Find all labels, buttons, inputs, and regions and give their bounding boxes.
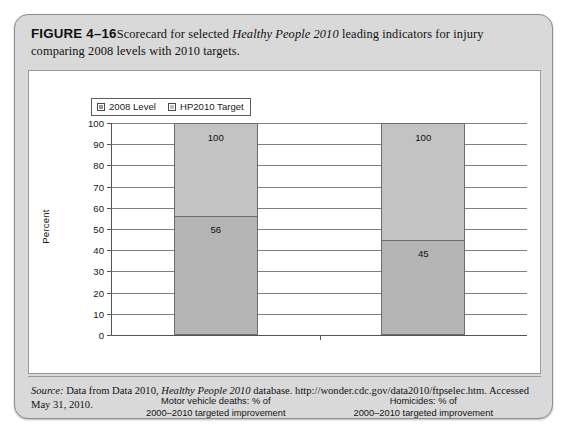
bar-value-label-target: 100 xyxy=(175,132,257,143)
y-axis-tick-label: 80 xyxy=(93,160,104,171)
source-prefix: Source: xyxy=(31,385,64,396)
y-axis-tick-label: 20 xyxy=(93,287,104,298)
y-axis-tick xyxy=(107,208,112,209)
y-axis-tick xyxy=(107,271,112,272)
figure-caption-text-1: Scorecard for selected xyxy=(117,27,232,41)
y-axis-tick-label: 40 xyxy=(93,245,104,256)
y-axis-tick xyxy=(107,314,112,315)
bar-value-label-target: 100 xyxy=(382,132,464,143)
y-axis-tick-label: 50 xyxy=(93,224,104,235)
figure-caption: FIGURE 4–16Scorecard for selected Health… xyxy=(15,15,553,60)
y-axis-tick-label: 0 xyxy=(99,330,104,341)
y-axis-tick-label: 90 xyxy=(93,139,104,150)
y-axis-tick-label: 100 xyxy=(88,118,104,129)
source-italic: Healthy People 2010 xyxy=(161,385,250,396)
plot-area: 100908070605040302010010056Motor vehicle… xyxy=(111,123,527,336)
y-axis-tick-label: 30 xyxy=(93,266,104,277)
divider-line xyxy=(28,376,541,377)
y-axis-tick xyxy=(107,123,112,124)
figure-number: FIGURE 4–16 xyxy=(31,26,117,41)
y-axis-tick-label: 70 xyxy=(93,181,104,192)
y-axis-tick xyxy=(107,293,112,294)
y-axis-tick-label: 60 xyxy=(93,202,104,213)
source-note: Source: Data from Data 2010, Healthy Peo… xyxy=(15,378,553,419)
y-axis-tick xyxy=(107,187,112,188)
y-axis-tick xyxy=(107,229,112,230)
plot-wrap: Percent 100908070605040302010010056Motor… xyxy=(29,71,542,375)
y-axis-title: Percent xyxy=(40,197,51,257)
y-axis-tick xyxy=(107,335,112,336)
figure-panel: FIGURE 4–16Scorecard for selected Health… xyxy=(14,14,553,419)
x-axis-tick xyxy=(320,335,321,340)
figure-caption-italic: Healthy People 2010 xyxy=(232,27,339,41)
bar-2008-level: 45 xyxy=(381,240,465,335)
y-axis-tick xyxy=(107,250,112,251)
chart-stage: 2008 Level HP2010 Target Percent 1009080… xyxy=(28,70,541,374)
bar-value-label-level: 45 xyxy=(382,248,464,259)
source-text-1: Data from Data 2010, xyxy=(64,385,162,396)
bar-2008-level: 56 xyxy=(174,216,258,335)
y-axis-tick xyxy=(107,165,112,166)
y-axis-tick-label: 10 xyxy=(93,308,104,319)
bar-value-label-level: 56 xyxy=(175,224,257,235)
y-axis-tick xyxy=(107,144,112,145)
